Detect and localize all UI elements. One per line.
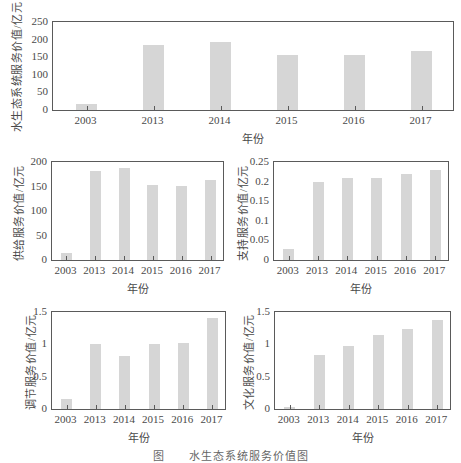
x-tick bbox=[355, 106, 356, 110]
x-tick bbox=[67, 405, 68, 409]
bar-2017 bbox=[205, 180, 216, 260]
bar-2017 bbox=[432, 320, 443, 409]
bar-2015 bbox=[371, 178, 382, 260]
x-tick bbox=[124, 256, 125, 260]
bar-2015 bbox=[149, 344, 160, 409]
bar-2016 bbox=[178, 343, 189, 409]
x-tick bbox=[319, 405, 320, 409]
x-tick bbox=[182, 256, 183, 260]
x-tick bbox=[347, 256, 348, 260]
bar-2016 bbox=[401, 174, 412, 260]
bar-2014 bbox=[343, 346, 354, 409]
y-axis-title: 支持服务价值/亿元 bbox=[234, 165, 250, 261]
x-tick bbox=[125, 405, 126, 409]
x-tick-label: 2013 bbox=[133, 114, 173, 126]
bar-2013 bbox=[143, 45, 164, 110]
x-tick bbox=[212, 405, 213, 409]
bar-2016 bbox=[344, 55, 365, 110]
figure-caption: 图 水生态系统服务价值图 bbox=[0, 447, 461, 463]
bar-2014 bbox=[119, 168, 130, 260]
x-tick bbox=[408, 405, 409, 409]
bar-2015 bbox=[147, 185, 158, 260]
bar-2013 bbox=[313, 182, 324, 260]
bar-2017 bbox=[207, 318, 218, 409]
bar-2016 bbox=[176, 186, 187, 260]
x-tick-label: 2017 bbox=[401, 114, 441, 126]
x-tick bbox=[349, 405, 350, 409]
y-axis-title: 水生态系统服务价值/亿元 bbox=[8, 2, 24, 132]
x-tick-label: 2017 bbox=[190, 264, 230, 276]
x-axis-title: 年份 bbox=[331, 280, 391, 296]
y-axis-title: 调节服务价值/亿元 bbox=[22, 314, 38, 410]
x-axis-title: 年份 bbox=[108, 280, 168, 296]
x-tick bbox=[96, 405, 97, 409]
x-tick bbox=[154, 106, 155, 110]
x-tick bbox=[422, 106, 423, 110]
x-tick bbox=[153, 256, 154, 260]
x-axis-title: 年份 bbox=[109, 429, 169, 445]
x-tick bbox=[66, 256, 67, 260]
plot-area bbox=[51, 311, 226, 410]
bar-2014 bbox=[119, 356, 130, 409]
x-tick-label: 2017 bbox=[414, 264, 454, 276]
x-tick bbox=[87, 106, 88, 110]
plot-area bbox=[273, 161, 449, 261]
x-tick bbox=[378, 405, 379, 409]
x-tick bbox=[435, 256, 436, 260]
x-tick bbox=[290, 405, 291, 409]
plot-area bbox=[52, 21, 454, 111]
bar-2013 bbox=[90, 171, 101, 260]
x-tick bbox=[289, 256, 290, 260]
x-tick bbox=[154, 405, 155, 409]
bar-2014 bbox=[210, 42, 231, 110]
y-axis-title: 文化服务价值/亿元 bbox=[240, 314, 256, 410]
bar-2013 bbox=[90, 344, 101, 409]
bar-2015 bbox=[373, 335, 384, 409]
x-tick bbox=[288, 106, 289, 110]
x-tick bbox=[377, 256, 378, 260]
x-tick-label: 2017 bbox=[191, 413, 231, 425]
x-tick-label: 2014 bbox=[200, 114, 240, 126]
bar-2014 bbox=[342, 178, 353, 260]
x-tick bbox=[211, 256, 212, 260]
x-tick bbox=[406, 256, 407, 260]
x-tick-label: 2017 bbox=[416, 413, 456, 425]
x-axis-title: 年份 bbox=[333, 429, 393, 445]
plot-area bbox=[274, 311, 451, 410]
x-tick-label: 2003 bbox=[66, 114, 106, 126]
x-tick bbox=[183, 405, 184, 409]
bar-2013 bbox=[314, 355, 325, 409]
bar-2015 bbox=[277, 55, 298, 110]
x-tick-label: 2016 bbox=[334, 114, 374, 126]
x-tick bbox=[95, 256, 96, 260]
plot-area bbox=[51, 161, 224, 261]
x-tick bbox=[318, 256, 319, 260]
x-tick-label: 2015 bbox=[267, 114, 307, 126]
bar-2017 bbox=[430, 170, 441, 260]
x-tick bbox=[221, 106, 222, 110]
x-tick bbox=[437, 405, 438, 409]
bar-2017 bbox=[411, 51, 432, 110]
bar-2016 bbox=[402, 329, 413, 409]
y-axis-title: 供给服务价值/亿元 bbox=[10, 165, 26, 261]
x-axis-title: 年份 bbox=[223, 130, 283, 146]
